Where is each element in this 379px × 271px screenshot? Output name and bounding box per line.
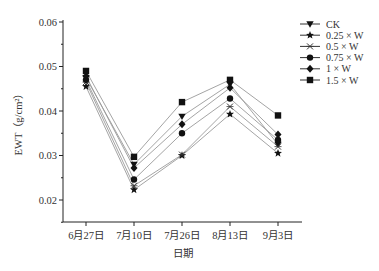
- x-tick-label: 7月26日: [164, 230, 200, 241]
- legend-item: 1 × W: [300, 63, 351, 74]
- legend-label: 0.75 × W: [326, 52, 364, 63]
- legend-item: 0.5 × W: [300, 41, 359, 52]
- x-tick-label: 7月10日: [116, 230, 152, 241]
- legend-item: 1.5 × W: [300, 75, 359, 86]
- axes: 0.020.030.040.050.066月27日7月10日7月26日8月13日…: [39, 17, 302, 242]
- legend-label: 1.5 × W: [326, 75, 359, 86]
- series-markers: [82, 68, 282, 193]
- legend-item: 0.25 × W: [300, 30, 364, 41]
- circle-icon: [307, 54, 313, 60]
- circle-marker: [227, 95, 233, 101]
- legend-item: 0.75 × W: [300, 52, 364, 63]
- x-axis-title: 日期: [173, 248, 193, 259]
- x-cross-icon: [307, 43, 314, 49]
- legend: CK0.25 × W0.5 × W0.75 × W1 × W1.5 × W: [300, 19, 364, 86]
- square-icon: [307, 77, 313, 83]
- star-marker: [130, 186, 138, 194]
- y-axis-title: EWT（g/cm²）: [13, 89, 24, 156]
- y-tick-label: 0.02: [39, 195, 57, 206]
- square-marker: [227, 77, 233, 83]
- square-marker: [83, 68, 89, 74]
- legend-label: 0.25 × W: [326, 30, 364, 41]
- x-cross-marker: [227, 104, 234, 110]
- y-tick-label: 0.03: [39, 150, 57, 161]
- legend-label: 0.5 × W: [326, 41, 359, 52]
- star-marker: [274, 149, 282, 157]
- legend-label: 1 × W: [326, 63, 351, 74]
- x-tick-label: 6月27日: [68, 230, 104, 241]
- square-marker: [275, 112, 281, 118]
- square-marker: [179, 99, 185, 105]
- circle-marker: [131, 176, 137, 182]
- y-tick-label: 0.04: [39, 106, 58, 117]
- y-tick-label: 0.05: [39, 61, 57, 72]
- x-tick-label: 9月3日: [263, 230, 294, 241]
- line-chart: 0.020.030.040.050.066月27日7月10日7月26日8月13日…: [0, 0, 379, 271]
- legend-label: CK: [326, 19, 341, 30]
- x-tick-label: 8月13日: [212, 230, 248, 241]
- square-marker: [131, 154, 137, 160]
- legend-item: CK: [300, 19, 341, 30]
- star-icon: [306, 31, 314, 39]
- diamond-icon: [307, 65, 314, 73]
- circle-marker: [179, 130, 185, 136]
- y-tick-label: 0.06: [39, 17, 57, 28]
